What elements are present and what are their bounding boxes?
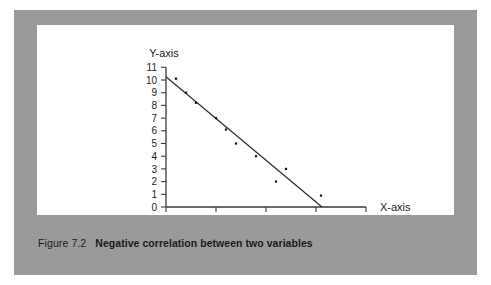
y-axis-tick-label: 2 — [151, 176, 157, 187]
data-point — [215, 117, 217, 119]
x-axis-tick-label: 20 — [360, 214, 372, 215]
data-point — [195, 102, 197, 104]
y-axis-title: Y-axis — [149, 47, 179, 59]
data-point — [175, 78, 177, 80]
data-point — [320, 194, 322, 196]
y-axis-tick-label: 5 — [151, 138, 157, 149]
data-point — [285, 168, 287, 170]
data-point — [275, 181, 277, 183]
y-axis-tick-label: 4 — [151, 151, 157, 162]
figure-frame: 0123456789101101020Y-axisX-axis Figure 7… — [14, 10, 477, 275]
plot-card: 0123456789101101020Y-axisX-axis — [37, 25, 454, 215]
y-axis-tick-label: 1 — [151, 189, 157, 200]
caption-text: Negative correlation between two variabl… — [95, 237, 312, 249]
y-axis-tick-label: 0 — [151, 202, 157, 213]
scatter-chart: 0123456789101101020Y-axisX-axis — [37, 25, 454, 215]
data-point — [225, 128, 227, 130]
y-axis-tick-label: 11 — [147, 62, 158, 73]
y-axis-tick-label: 10 — [146, 75, 158, 86]
y-axis-tick-label: 8 — [151, 100, 157, 111]
y-axis-tick-label: 6 — [151, 125, 157, 136]
trend-line — [166, 77, 322, 207]
data-point — [185, 92, 187, 94]
x-axis-title: X-axis — [380, 201, 411, 213]
data-point — [235, 142, 237, 144]
figure-caption: Figure 7.2 Negative correlation between … — [14, 228, 477, 258]
y-axis-tick-label: 9 — [151, 87, 157, 98]
x-axis-tick-label: 0 — [163, 214, 169, 215]
x-axis-tick-label: 10 — [260, 214, 272, 215]
y-axis-tick-label: 7 — [151, 113, 157, 124]
caption-number: Figure 7.2 — [38, 237, 86, 249]
y-axis-tick-label: 3 — [151, 164, 157, 175]
data-point — [255, 155, 257, 157]
